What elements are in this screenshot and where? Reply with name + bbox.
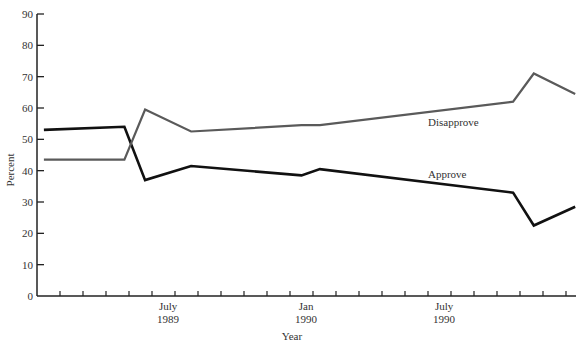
y-tick-label: 0 xyxy=(28,290,34,302)
y-tick-label: 10 xyxy=(22,259,34,271)
x-tick-label: Jan xyxy=(299,300,314,312)
y-tick-label: 70 xyxy=(22,71,34,83)
x-tick-sublabel: 1989 xyxy=(157,313,180,325)
x-axis: July1989Jan1990July1990 xyxy=(37,291,576,325)
y-tick-label: 90 xyxy=(22,8,34,20)
x-tick-label: July xyxy=(159,300,178,312)
series-disapprove-line xyxy=(44,74,575,160)
label-disapprove: Disapprove xyxy=(428,116,479,128)
x-tick-sublabel: 1990 xyxy=(295,313,318,325)
label-approve: Approve xyxy=(428,168,467,180)
y-tick-label: 20 xyxy=(22,227,34,239)
series-lines xyxy=(44,74,575,226)
y-tick-label: 80 xyxy=(22,39,34,51)
line-chart: 0102030405060708090 July1989Jan1990July1… xyxy=(0,0,580,347)
y-axis: 0102030405060708090 xyxy=(22,8,44,302)
x-tick-label: July xyxy=(435,300,454,312)
y-tick-label: 40 xyxy=(22,165,34,177)
y-tick-label: 30 xyxy=(22,196,34,208)
series-approve-line xyxy=(44,127,575,226)
x-tick-sublabel: 1990 xyxy=(433,313,456,325)
series-labels: DisapproveApprove xyxy=(428,116,479,180)
y-tick-label: 50 xyxy=(22,133,34,145)
y-tick-label: 60 xyxy=(22,102,34,114)
y-axis-title: Percent xyxy=(4,154,16,187)
x-axis-title: Year xyxy=(282,330,303,342)
